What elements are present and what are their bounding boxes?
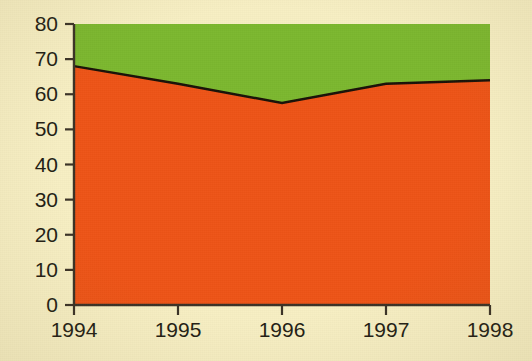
y-axis-tick-label: 70 [35, 47, 58, 70]
y-axis-tick-label: 80 [35, 12, 58, 35]
x-axis-tick-label: 1997 [363, 318, 410, 341]
x-axis-tick-label: 1995 [155, 318, 202, 341]
x-axis-tick-label: 1996 [259, 318, 306, 341]
chart-canvas: 01020304050607080 19941995199619971998 [0, 0, 532, 361]
y-axis-tick-label: 10 [35, 258, 58, 281]
y-axis-tick-label: 30 [35, 188, 58, 211]
y-axis-tick-labels: 01020304050607080 [35, 12, 58, 316]
x-axis-tick-label: 1998 [467, 318, 514, 341]
area-chart: 01020304050607080 19941995199619971998 [0, 0, 532, 361]
y-axis-tick-label: 0 [46, 293, 58, 316]
plot-area [74, 24, 490, 305]
y-axis-tick-label: 40 [35, 153, 58, 176]
y-axis-tick-label: 20 [35, 223, 58, 246]
x-axis-tick-label: 1994 [51, 318, 98, 341]
y-axis-tick-label: 60 [35, 82, 58, 105]
y-axis-tick-label: 50 [35, 117, 58, 140]
